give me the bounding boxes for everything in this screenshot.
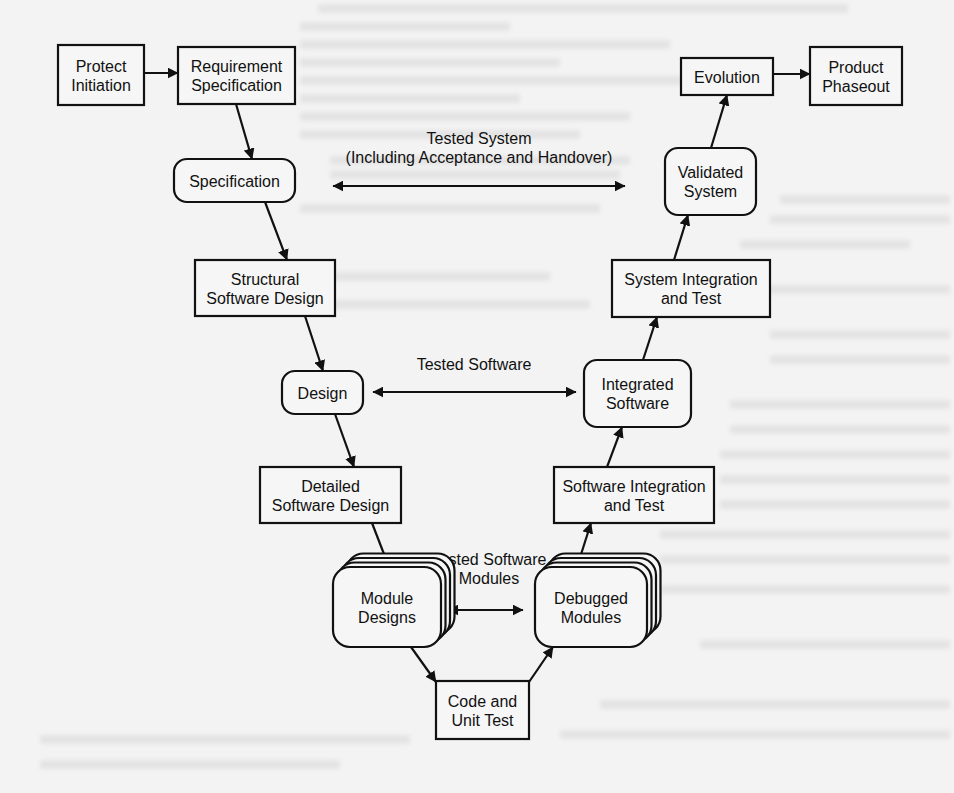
- node-label: Software Design: [272, 497, 389, 514]
- node-product-phaseout: ProductPhaseout: [810, 47, 902, 105]
- node-shape: [535, 567, 647, 647]
- node-label: Requirement: [191, 58, 283, 75]
- node-structural-software-design: StructuralSoftware Design: [195, 260, 335, 316]
- flow-arrow-module-designs-to-code-and-unit-test: [411, 647, 436, 682]
- node-shape: [554, 467, 714, 523]
- node-label: Structural: [231, 271, 299, 288]
- node-label: System: [684, 183, 737, 200]
- node-system-integration-and-test: System Integrationand Test: [612, 260, 770, 317]
- flow-arrow-software-integration-and-test-to-integrated-software: [607, 427, 622, 467]
- node-label: Design: [298, 385, 348, 402]
- node-integrated-software: IntegratedSoftware: [584, 360, 691, 427]
- node-specification: Specification: [174, 159, 295, 202]
- node-shape: [58, 45, 144, 105]
- flow-arrow-system-integration-and-test-to-validated-system: [674, 215, 688, 260]
- node-software-integration-and-test: Software Integrationand Test: [554, 467, 714, 523]
- flow-arrow-validated-system-to-evolution: [711, 95, 727, 148]
- lifecycle-v-diagram: Tested System(Including Acceptance and H…: [0, 0, 954, 793]
- node-label: and Test: [604, 497, 665, 514]
- flow-arrow-code-and-unit-test-to-debugged-modules: [529, 647, 553, 682]
- node-label: Software: [606, 395, 669, 412]
- node-label: Specification: [191, 77, 282, 94]
- node-shape: [665, 148, 756, 215]
- flow-arrow-integrated-software-to-system-integration-and-test: [643, 317, 657, 360]
- node-label: Designs: [358, 609, 416, 626]
- node-debugged-modules: DebuggedModules: [535, 554, 661, 648]
- node-label: Modules: [561, 609, 621, 626]
- correspondence-label: Modules: [459, 570, 519, 587]
- node-label: Detailed: [301, 478, 360, 495]
- node-module-designs: ModuleDesigns: [333, 554, 455, 648]
- node-requirement-specification: RequirementSpecification: [178, 47, 295, 104]
- node-detailed-software-design: DetailedSoftware Design: [260, 467, 401, 523]
- node-shape: [584, 360, 691, 427]
- node-validated-system: ValidatedSystem: [665, 148, 756, 215]
- node-design: Design: [282, 371, 363, 414]
- node-shape: [195, 260, 335, 316]
- node-project-initiation: ProtectInitiation: [58, 45, 144, 105]
- node-label: Validated: [678, 164, 744, 181]
- node-label: Integrated: [601, 376, 673, 393]
- correspondence-label: (Including Acceptance and Handover): [346, 149, 613, 166]
- node-label: Module: [361, 590, 414, 607]
- correspondence-label: Tested System: [427, 130, 532, 147]
- node-code-and-unit-test: Code andUnit Test: [436, 681, 529, 739]
- node-label: Unit Test: [452, 712, 515, 729]
- node-label: Code and: [448, 693, 517, 710]
- node-label: Initiation: [71, 77, 131, 94]
- correspondence-tested-system: Tested System(Including Acceptance and H…: [333, 130, 625, 186]
- node-shape: [436, 681, 529, 739]
- node-label: Software Integration: [562, 478, 705, 495]
- flow-arrow-specification-to-structural-software-design: [265, 202, 287, 260]
- node-label: Specification: [189, 173, 280, 190]
- correspondence-label: Tested Software: [417, 356, 532, 373]
- node-label: Protect: [76, 58, 127, 75]
- node-label: Software Design: [206, 290, 323, 307]
- node-label: and Test: [661, 290, 722, 307]
- node-evolution: Evolution: [681, 58, 773, 95]
- node-shape: [178, 47, 295, 104]
- node-shape: [333, 567, 441, 647]
- node-label: Phaseout: [822, 78, 890, 95]
- node-shape: [612, 260, 770, 317]
- flow-arrow-structural-software-design-to-design: [305, 316, 323, 371]
- node-shape: [810, 47, 902, 105]
- node-label: System Integration: [624, 271, 757, 288]
- node-label: Debugged: [554, 590, 628, 607]
- correspondence-tested-software: Tested Software: [373, 356, 576, 392]
- node-label: Product: [828, 59, 884, 76]
- node-shape: [260, 467, 401, 523]
- node-label: Evolution: [694, 69, 760, 86]
- flow-arrow-requirement-specification-to-specification: [236, 104, 252, 159]
- flow-arrow-design-to-detailed-software-design: [335, 414, 354, 467]
